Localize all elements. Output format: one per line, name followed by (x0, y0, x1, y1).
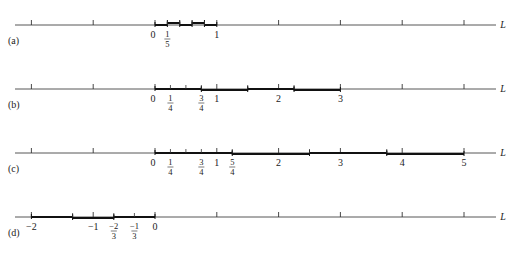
tick-label: 1 (214, 93, 219, 104)
panel-label-b: (b) (8, 99, 20, 111)
tick-label: 2 (276, 157, 281, 168)
tick-label: 1 (214, 157, 219, 168)
tick-label: 1 (214, 29, 219, 40)
fraction-denominator: 4 (199, 103, 204, 113)
fraction-denominator: 3 (132, 231, 136, 241)
tick-label: 5 (462, 157, 467, 168)
tick-label: 4 (400, 157, 405, 168)
fraction-numerator: 1 (168, 157, 172, 167)
axis-label-L: L (499, 211, 506, 222)
tick-label: −2 (26, 221, 37, 232)
tick-label: 0 (151, 29, 156, 40)
axis-label-L: L (499, 147, 506, 158)
panel-label-a: (a) (8, 35, 19, 47)
fraction-numerator: 1 (168, 93, 172, 103)
tick-label: 0 (153, 221, 158, 232)
fraction-numerator: 3 (199, 157, 203, 167)
tick-label: 2 (276, 93, 281, 104)
fraction-denominator: 5 (165, 39, 169, 49)
fraction-numerator: 3 (199, 93, 203, 103)
fraction-denominator: 3 (112, 231, 116, 241)
fraction-denominator: 4 (168, 167, 173, 177)
panel-label-d: (d) (8, 227, 20, 239)
fraction-denominator: 4 (230, 167, 235, 177)
fraction-numerator: 5 (230, 157, 234, 167)
number-line-figure: L(a)0151L(b)01434123L(c)014341542345L(d)… (0, 0, 514, 258)
fraction-numerator: −1 (130, 221, 139, 231)
tick-label: 3 (338, 157, 343, 168)
fraction-denominator: 4 (168, 103, 173, 113)
tick-label: 0 (151, 157, 156, 168)
axis-label-L: L (499, 19, 506, 30)
tick-label: −1 (88, 221, 99, 232)
panel-label-c: (c) (8, 163, 19, 175)
axis-label-L: L (499, 83, 506, 94)
fraction-denominator: 4 (199, 167, 204, 177)
tick-label: 3 (338, 93, 343, 104)
fraction-numerator: 1 (165, 29, 169, 39)
tick-label: 0 (151, 93, 156, 104)
fraction-numerator: −2 (109, 221, 118, 231)
